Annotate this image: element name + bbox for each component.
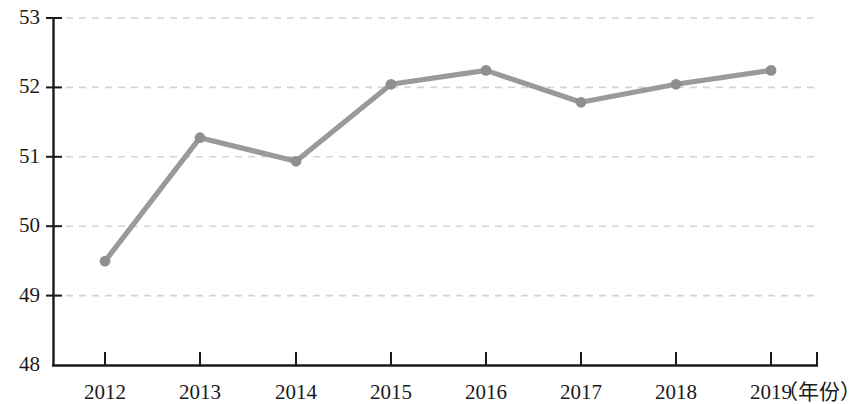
y-tick-label-48: 48 xyxy=(0,354,40,375)
x-tick-label-2013: 2013 xyxy=(155,382,245,403)
gridlines xyxy=(53,18,816,296)
data-point-2017 xyxy=(576,97,587,108)
data-point-2012 xyxy=(100,256,111,267)
line-chart: 53 52 51 50 49 48 2012 2013 2014 2015 20… xyxy=(0,0,865,404)
data-series xyxy=(100,65,777,267)
data-point-2013 xyxy=(195,132,206,143)
y-tick-label-53: 53 xyxy=(0,7,40,28)
x-tick-label-2017: 2017 xyxy=(536,382,626,403)
y-tick-label-52: 52 xyxy=(0,76,40,97)
x-tick-label-2016: 2016 xyxy=(441,382,531,403)
y-tick-label-50: 50 xyxy=(0,215,40,236)
data-point-2016 xyxy=(481,65,492,76)
data-point-2014 xyxy=(291,156,302,167)
chart-canvas xyxy=(0,0,865,404)
x-tick-label-2014: 2014 xyxy=(251,382,341,403)
x-axis-unit-label: （年份） xyxy=(777,382,861,403)
x-tick-label-2015: 2015 xyxy=(346,382,436,403)
x-tick-label-2018: 2018 xyxy=(631,382,721,403)
data-point-2019 xyxy=(766,65,777,76)
data-point-2018 xyxy=(671,79,682,90)
data-point-2015 xyxy=(386,79,397,90)
series-line xyxy=(105,70,771,261)
x-tick-label-2012: 2012 xyxy=(60,382,150,403)
y-axis xyxy=(46,17,62,366)
y-tick-label-49: 49 xyxy=(0,285,40,306)
x-axis xyxy=(52,352,818,366)
y-tick-label-51: 51 xyxy=(0,146,40,167)
